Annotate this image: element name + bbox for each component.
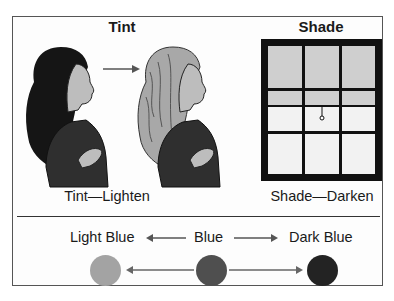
label-dark-blue: Dark Blue (289, 229, 353, 245)
section-divider (17, 216, 380, 217)
shade-title: Shade (286, 18, 356, 35)
swatch-arrow-left-icon (126, 265, 194, 275)
arrow-right-icon (234, 233, 279, 243)
dark-blue-swatch (307, 255, 338, 286)
shade-pull-cord-icon (318, 107, 326, 121)
label-light-blue: Light Blue (70, 229, 135, 245)
light-blue-swatch (90, 255, 121, 286)
woman-light-hair-illustration (128, 42, 228, 192)
arrow-left-icon (146, 233, 186, 243)
tint-caption: Tint—Lighten (52, 188, 162, 204)
tint-title: Tint (92, 18, 152, 35)
window-with-shade-illustration (261, 39, 382, 181)
swatch-arrow-right-icon (229, 265, 304, 275)
woman-dark-hair-illustration (16, 42, 116, 192)
label-blue: Blue (194, 229, 223, 245)
blue-swatch (196, 255, 227, 286)
shade-caption: Shade—Darken (262, 188, 382, 204)
